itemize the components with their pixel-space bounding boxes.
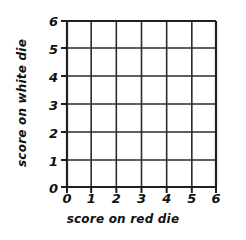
x-tick-label: 3 (137, 192, 146, 205)
y-tick-label: 1 (40, 155, 58, 168)
y-axis-tick-labels: 6 5 4 3 2 1 0 (40, 20, 58, 188)
x-axis-tick-labels: 0 1 2 3 4 5 6 (66, 192, 217, 208)
x-tick-label: 0 (62, 192, 71, 205)
grid-lines (66, 20, 217, 188)
y-tick-label: 3 (40, 99, 58, 112)
plot-area (66, 20, 217, 188)
x-axis-title: score on red die (0, 212, 246, 226)
x-tick-label: 6 (211, 192, 220, 205)
y-tick-label: 6 (40, 15, 58, 28)
x-tick-label: 1 (87, 192, 96, 205)
y-tick-label: 2 (40, 127, 58, 140)
y-tick-label: 0 (40, 182, 58, 195)
dice-sample-space-figure: 6 5 4 3 2 1 0 0 1 2 3 4 5 6 score on red… (0, 0, 246, 240)
y-tick-label: 5 (40, 43, 58, 56)
x-tick-label: 2 (112, 192, 121, 205)
x-tick-label: 4 (162, 192, 171, 205)
y-axis-title: score on white die (15, 19, 29, 187)
x-tick-label: 5 (187, 192, 196, 205)
y-tick-label: 4 (40, 71, 58, 84)
